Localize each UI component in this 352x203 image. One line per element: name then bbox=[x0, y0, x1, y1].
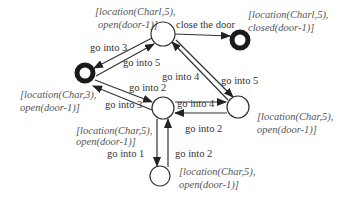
diagram-svg: [location(Charl,5), open(door-1)] [locat… bbox=[0, 0, 352, 203]
edge-label-mid-to-bottom: go into 1 bbox=[107, 148, 144, 159]
state-label-char3-line2: open(door-1)] bbox=[20, 102, 80, 114]
state-label-closed-line2: closed(door-1)] bbox=[248, 22, 314, 34]
edge-label-char3-to-mid: go into 2 bbox=[129, 82, 166, 93]
state-label-right-line1: [location(Char,5), bbox=[257, 111, 333, 123]
state-label-top-line1: [location(Charl,5), bbox=[95, 6, 176, 18]
state-node-mid bbox=[152, 97, 174, 119]
state-label-char3-line1: [location(Char,3), bbox=[20, 89, 96, 101]
state-label-bottom-line2: open(door-1)] bbox=[179, 179, 239, 191]
state-label-right-line2: open(door-1)] bbox=[257, 124, 317, 136]
state-label-closed-line1: [location(Charl,5), bbox=[248, 9, 329, 21]
edge-label-mid-to-char3: go into 3 bbox=[105, 99, 142, 110]
edge-label-char3-to-top: go into 5 bbox=[123, 57, 160, 68]
state-node-right bbox=[227, 96, 249, 118]
state-diagram: [location(Charl,5), open(door-1)] [locat… bbox=[0, 0, 352, 203]
state-label-mid-line2: open(door-1)] bbox=[76, 136, 136, 148]
state-label-bottom-line1: [location(Char,5), bbox=[179, 166, 255, 178]
state-node-closed bbox=[232, 32, 248, 48]
edge-label-bottom-to-mid: go into 2 bbox=[175, 148, 212, 159]
edge-label-top-to-right: go into 5 bbox=[221, 75, 258, 86]
state-node-char3 bbox=[77, 65, 93, 81]
edge-label-right-to-top: go into 4 bbox=[162, 71, 200, 82]
edge-label-top-to-char3: go into 3 bbox=[90, 42, 127, 53]
edge-top-to-closed bbox=[175, 34, 230, 36]
state-label-top-line2: open(door-1)] bbox=[98, 19, 158, 31]
edge-label-right-to-mid: go into 2 bbox=[185, 123, 222, 134]
edge-label-mid-to-right: go into 4 bbox=[177, 98, 215, 109]
state-node-bottom bbox=[150, 166, 170, 186]
edge-label-top-to-closed: close the door bbox=[176, 19, 235, 30]
edge-top-to-right bbox=[176, 40, 233, 97]
